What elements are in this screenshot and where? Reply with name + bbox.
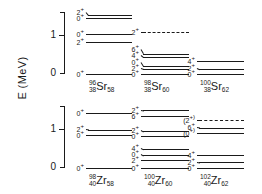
energy-level <box>199 120 244 121</box>
level-leader-line <box>197 120 200 121</box>
energy-level <box>199 162 244 163</box>
level-scheme-102Zr: 0+2+4+(0+)6+(2+)10240Zr62 <box>0 0 262 194</box>
nuclide-label-102Zr: 10240Zr62 <box>200 174 228 188</box>
level-spin-parity-label: (0+) <box>177 130 195 137</box>
neutron-number: 62 <box>221 180 228 187</box>
level-spin-parity-label: 0+ <box>177 165 195 172</box>
energy-level <box>199 155 244 156</box>
element-symbol: Zr <box>211 174 221 186</box>
level-leader-line <box>197 168 200 169</box>
level-leader-line <box>197 133 200 134</box>
proton-number: 40 <box>200 181 211 188</box>
energy-level <box>199 128 244 129</box>
level-spin-parity-label: 2+ <box>177 158 195 165</box>
level-leader-line <box>196 127 199 128</box>
level-spin-parity-label: (2+) <box>177 116 195 123</box>
nuclide-mass-charge: 10240 <box>200 174 211 188</box>
energy-level <box>199 168 244 169</box>
level-leader-line <box>196 162 199 163</box>
level-spin-parity-label: 4+ <box>177 152 195 159</box>
level-leader-line <box>197 155 200 156</box>
level-spin-parity-label: 6+ <box>177 124 195 131</box>
energy-level <box>199 133 244 134</box>
nuclear-level-scheme-figure: E (MeV) 1 0 1 0 0+2+0+0+2+9638Sr580+2+0+… <box>0 0 262 194</box>
